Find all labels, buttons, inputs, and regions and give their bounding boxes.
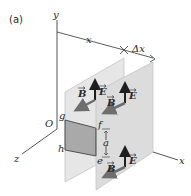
b-vector-label: B — [106, 163, 115, 174]
x-axis — [153, 152, 178, 160]
dimension-tick-icon — [120, 46, 128, 54]
z-axis — [22, 129, 57, 154]
e-vector-label: E — [128, 155, 137, 166]
corner-g-label: g — [59, 110, 65, 121]
side-a-label: a — [103, 137, 109, 148]
e-vector-label: E — [98, 86, 107, 97]
origin-label: O — [45, 118, 53, 129]
wave-diagram: (a) y O z x x Δx g h f e a E B E B E B — [0, 0, 191, 196]
b-vector-label: B — [106, 97, 115, 108]
dimension-tick-icon — [150, 55, 155, 62]
z-axis-label: z — [13, 153, 20, 164]
e-vector-label: E — [128, 90, 137, 101]
y-axis-label: y — [52, 9, 59, 20]
panel-label: (a) — [9, 14, 23, 25]
distance-x-label: x — [86, 34, 92, 45]
corner-e-label: e — [97, 155, 103, 166]
x-axis-label: x — [179, 155, 185, 166]
corner-h-label: h — [58, 143, 64, 154]
delta-x-label: Δx — [131, 43, 145, 54]
b-vector-label: B — [77, 88, 86, 99]
